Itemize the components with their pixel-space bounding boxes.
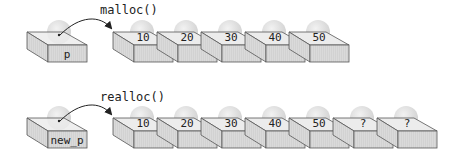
memory-diagram: malloc() p 10 20 — [0, 0, 459, 159]
svg-text:40: 40 — [268, 31, 281, 44]
svg-text:50: 50 — [312, 31, 325, 44]
array-cells: 10 20 30 40 — [113, 106, 437, 148]
pointer-box-new-p: new_p — [27, 106, 87, 148]
malloc-row: malloc() p 10 20 — [27, 3, 349, 62]
pointer-label: p — [64, 48, 71, 61]
svg-text:30: 30 — [224, 117, 237, 130]
svg-text:40: 40 — [268, 117, 281, 130]
svg-text:10: 10 — [136, 117, 149, 130]
pointer-label: new_p — [50, 134, 83, 147]
malloc-label: malloc() — [100, 3, 158, 17]
realloc-row: realloc() new_p 10 20 — [27, 90, 437, 148]
pointer-box-p: p — [27, 20, 87, 62]
svg-text:20: 20 — [180, 117, 193, 130]
array-cells: 10 20 30 40 — [113, 20, 349, 62]
svg-text:20: 20 — [180, 31, 193, 44]
svg-text:?: ? — [360, 117, 367, 130]
svg-text:?: ? — [404, 117, 411, 130]
svg-text:30: 30 — [224, 31, 237, 44]
svg-text:10: 10 — [136, 31, 149, 44]
realloc-label: realloc() — [100, 90, 165, 104]
svg-text:50: 50 — [312, 117, 325, 130]
